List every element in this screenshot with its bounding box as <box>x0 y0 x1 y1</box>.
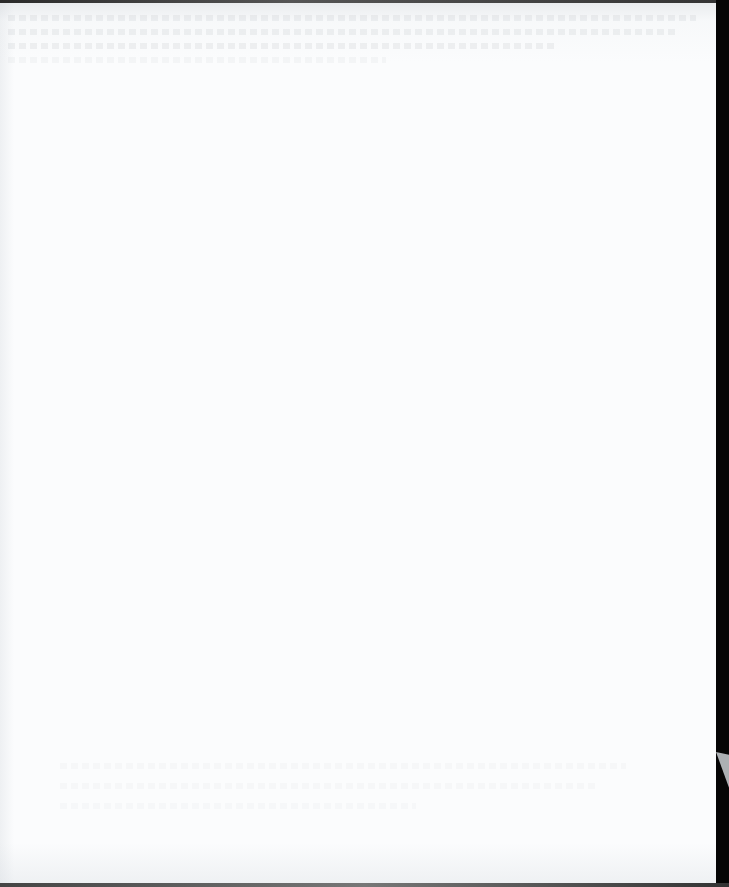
bleed-through-line <box>60 763 626 769</box>
bleed-through-line <box>60 783 596 789</box>
bleed-through-line <box>8 15 696 21</box>
bleed-through-line <box>60 803 416 809</box>
scan-bottom-edge <box>0 883 729 887</box>
bleed-through-line <box>8 57 386 63</box>
scanned-page-canvas <box>0 0 729 887</box>
bleed-through-line <box>8 43 556 49</box>
bleed-through-line <box>8 29 676 35</box>
blank-page <box>0 3 716 883</box>
